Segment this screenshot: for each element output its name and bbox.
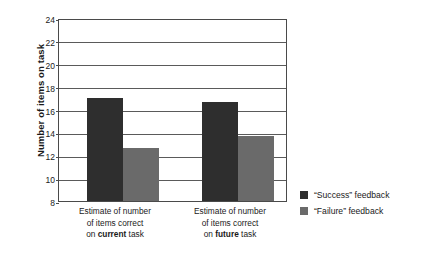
gridline-20 bbox=[59, 65, 286, 66]
category-0-line-3-prefix: on bbox=[86, 229, 98, 239]
gridline-18 bbox=[59, 88, 286, 89]
category-1-line-3-suffix: task bbox=[239, 229, 257, 239]
y-tick-label-14: 14 bbox=[46, 129, 55, 139]
bar-failure-group-1 bbox=[238, 136, 274, 201]
category-1-line-2: of items correct bbox=[173, 218, 287, 230]
legend-swatch-icon-1 bbox=[300, 207, 308, 215]
y-tick-label-10: 10 bbox=[46, 175, 55, 185]
category-0-line-1: Estimate of number bbox=[58, 206, 172, 218]
bar-chart-figure: Number of items on task 8101214161820222… bbox=[0, 0, 423, 262]
x-axis-category-label-1: Estimate of number of items correct on f… bbox=[173, 206, 287, 241]
plot-area: 81012141618202224 bbox=[58, 19, 287, 202]
bar-success-group-0 bbox=[87, 98, 123, 201]
category-1-line-3: on future task bbox=[173, 229, 287, 241]
bar-failure-group-0 bbox=[123, 148, 159, 201]
category-0-line-2: of items correct bbox=[58, 218, 172, 230]
category-1-line-3-prefix: on bbox=[204, 229, 216, 239]
y-tick-mark-18 bbox=[56, 88, 59, 89]
y-tick-label-18: 18 bbox=[46, 84, 55, 94]
y-tick-mark-16 bbox=[56, 111, 59, 112]
y-tick-mark-8 bbox=[56, 203, 59, 204]
y-tick-label-24: 24 bbox=[46, 15, 55, 25]
bar-success-group-1 bbox=[202, 102, 238, 202]
y-tick-label-22: 22 bbox=[46, 38, 55, 48]
chart-legend: “Success” feedback“Failure” feedback bbox=[300, 188, 389, 220]
y-tick-mark-10 bbox=[56, 180, 59, 181]
category-0-line-3-bold: current bbox=[98, 229, 127, 239]
y-tick-label-8: 8 bbox=[50, 198, 55, 208]
gridline-22 bbox=[59, 42, 286, 43]
category-0-line-3: on current task bbox=[58, 229, 172, 241]
category-1-line-1: Estimate of number bbox=[173, 206, 287, 218]
x-axis-category-label-0: Estimate of number of items correct on c… bbox=[58, 206, 172, 241]
y-tick-mark-24 bbox=[56, 20, 59, 21]
y-tick-mark-12 bbox=[56, 157, 59, 158]
legend-item-1[interactable]: “Failure” feedback bbox=[300, 204, 389, 217]
legend-label-1: “Failure” feedback bbox=[314, 206, 383, 216]
category-0-line-3-suffix: task bbox=[126, 229, 144, 239]
y-tick-mark-14 bbox=[56, 134, 59, 135]
legend-swatch-icon-0 bbox=[300, 191, 308, 199]
y-tick-mark-20 bbox=[56, 65, 59, 66]
y-tick-label-16: 16 bbox=[46, 107, 55, 117]
y-tick-mark-22 bbox=[56, 42, 59, 43]
y-tick-label-12: 12 bbox=[46, 152, 55, 162]
category-1-line-3-bold: future bbox=[215, 229, 239, 239]
legend-item-0[interactable]: “Success” feedback bbox=[300, 188, 389, 201]
legend-label-0: “Success” feedback bbox=[314, 190, 389, 200]
y-axis-title: Number of items on task bbox=[35, 11, 46, 191]
y-tick-label-20: 20 bbox=[46, 61, 55, 71]
